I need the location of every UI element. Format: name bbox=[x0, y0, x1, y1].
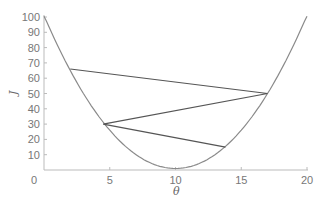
origin-label: 0 bbox=[31, 174, 37, 186]
cost-curve bbox=[44, 16, 307, 168]
y-tick-label: 30 bbox=[28, 118, 40, 130]
y-tick-label: 50 bbox=[28, 88, 40, 100]
x-axis-label: θ bbox=[173, 185, 180, 198]
y-tick-label: 80 bbox=[28, 42, 40, 54]
x-tick-label: 5 bbox=[107, 174, 113, 186]
x-tick-label: 20 bbox=[301, 174, 313, 186]
y-tick-label: 100 bbox=[22, 11, 40, 23]
y-tick-label: 60 bbox=[28, 72, 40, 84]
y-tick-label: 40 bbox=[28, 103, 40, 115]
descent-path bbox=[70, 69, 267, 147]
y-tick-label: 10 bbox=[28, 149, 40, 161]
x-tick-label: 15 bbox=[235, 174, 247, 186]
x-axis: 5101520 θ bbox=[44, 167, 313, 198]
y-tick-label: 70 bbox=[28, 57, 40, 69]
y-tick-label: 90 bbox=[28, 26, 40, 38]
y-axis: 102030405060708090100 J bbox=[7, 11, 47, 170]
chart: 102030405060708090100 J 5101520 θ 0 bbox=[0, 0, 318, 209]
y-axis-label: J bbox=[7, 90, 20, 97]
y-tick-label: 20 bbox=[28, 133, 40, 145]
